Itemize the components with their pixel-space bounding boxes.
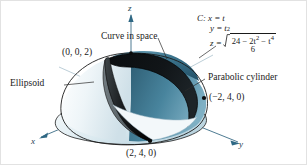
x-axis-label: x <box>31 137 35 146</box>
equation-radical: 24 − 2t2 − t4 6 <box>223 33 276 53</box>
parabolic-cylinder-label: Parabolic cylinder <box>208 73 277 83</box>
equation-fraction: 24 − 2t2 − t4 6 <box>230 33 276 53</box>
curve-equation: C: x = t y = t2 z = 24 − 2t2 − t4 6 <box>197 13 276 53</box>
equation-row-x: C: x = t <box>197 13 276 23</box>
point-marker-0-0-2 <box>129 51 133 55</box>
equation-row-y: y = t2 <box>210 23 276 33</box>
fraction-denominator: 6 <box>232 45 274 54</box>
numerator-exp-b: 4 <box>271 34 274 41</box>
radical-sign-icon <box>223 33 230 53</box>
figure-container: z x y Curve in space Ellipsoid Parabolic… <box>0 0 307 165</box>
numerator-part-b: − t <box>259 35 270 45</box>
x-axis-arrowhead <box>39 133 48 139</box>
equation-z-lhs: z = <box>210 38 222 48</box>
equation-y-lhs: y = <box>210 23 222 33</box>
curve-in-space-label: Curve in space <box>101 32 157 42</box>
point-label-2-4-0: (2, 4, 0) <box>126 149 156 159</box>
z-axis-label: z <box>128 4 132 13</box>
z-axis-arrowhead <box>128 14 133 22</box>
ellipsoid-label: Ellipsoid <box>10 79 44 89</box>
y-axis-label: y <box>239 140 243 149</box>
point-label-0-0-2: (0, 0, 2) <box>62 48 92 58</box>
point-label-neg2-4-0: (−2, 4, 0) <box>209 93 244 103</box>
equation-x-rhs: t <box>222 13 225 23</box>
equation-y-exponent: 2 <box>227 25 230 32</box>
point-marker-2-4-0 <box>148 139 152 143</box>
equation-x-lhs: x = <box>208 13 220 23</box>
equation-row-z: z = 24 − 2t2 − t4 6 <box>210 33 276 53</box>
point-marker-neg2-4-0 <box>202 96 206 100</box>
equation-curve-name: C: <box>197 13 206 23</box>
